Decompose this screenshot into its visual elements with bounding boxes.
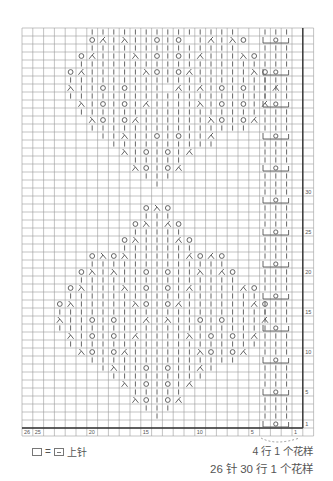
svg-text:10: 10 <box>197 429 203 435</box>
svg-text:5: 5 <box>305 389 308 395</box>
legend: = 上针 <box>32 444 87 459</box>
repeat-note-small: 4 行 1 个花样 <box>253 443 313 458</box>
svg-text:20: 20 <box>89 429 95 435</box>
svg-text:25: 25 <box>305 229 311 235</box>
svg-text:1: 1 <box>305 421 308 427</box>
svg-text:10: 10 <box>305 349 311 355</box>
purl-cell-icon <box>54 448 64 456</box>
repeat-note-main: 26 针 30 行 1 个花样 <box>210 460 313 476</box>
empty-cell-icon <box>32 448 42 456</box>
legend-equals: = <box>45 446 51 457</box>
legend-meaning: 上针 <box>67 444 87 459</box>
svg-text:30: 30 <box>305 189 311 195</box>
svg-text:26: 26 <box>24 429 30 435</box>
svg-text:1: 1 <box>294 429 297 435</box>
svg-text:15: 15 <box>143 429 149 435</box>
stitch-symbols <box>57 29 279 418</box>
knitting-chart: 262520151051151015202530 <box>0 0 333 481</box>
svg-text:25: 25 <box>35 429 41 435</box>
svg-text:15: 15 <box>305 309 311 315</box>
svg-text:20: 20 <box>305 269 311 275</box>
svg-text:5: 5 <box>251 429 254 435</box>
